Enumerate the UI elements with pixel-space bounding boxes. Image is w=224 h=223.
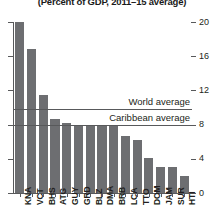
x-tickmark — [137, 194, 138, 197]
x-tickmark — [79, 194, 80, 197]
y-tick-left — [8, 22, 13, 23]
y-tick-label: 0 — [199, 189, 204, 198]
y-tick-left — [8, 90, 13, 91]
y-tick-label: 4 — [199, 154, 204, 163]
x-tickmark — [161, 194, 162, 197]
x-tickmark — [172, 194, 173, 197]
y-tick-label: 12 — [199, 86, 209, 95]
y-tick-left — [8, 125, 13, 126]
bar-guy — [62, 123, 71, 193]
y-tick-right — [191, 159, 196, 160]
bar-kna — [15, 22, 24, 193]
reference-label-caribbean: Caribbean average — [0, 113, 190, 123]
y-tick-right — [191, 56, 196, 57]
y-tick-label: 16 — [199, 52, 209, 61]
bar-grd — [74, 126, 83, 193]
x-tickmark — [20, 194, 21, 197]
x-tickmark — [43, 194, 44, 197]
x-tick-label-hti: HTI — [188, 194, 197, 205]
y-tick-label: 20 — [199, 18, 209, 27]
x-tickmark — [102, 194, 103, 197]
x-tickmark — [114, 194, 115, 197]
x-tickmark — [67, 194, 68, 197]
y-tick-label: 8 — [199, 120, 204, 129]
x-tickmark — [184, 194, 185, 197]
x-tickmark — [90, 194, 91, 197]
y-tick-left — [8, 56, 13, 57]
y-tick-left — [8, 159, 13, 160]
chart-figure: (Percent of GDP, 2011–15 average) 048121… — [0, 0, 224, 223]
y-tick-left — [8, 193, 13, 194]
bar-blz — [86, 126, 95, 193]
y-tick-right — [191, 22, 196, 23]
reference-line-caribbean — [14, 125, 192, 126]
x-tickmark — [125, 194, 126, 197]
reference-line-world — [14, 109, 192, 110]
bar-brb — [109, 126, 118, 193]
x-tickmark — [32, 194, 33, 197]
bar-dma — [97, 126, 106, 193]
x-tickmark — [55, 194, 56, 197]
bar-series — [14, 22, 190, 193]
bar-tto — [133, 140, 142, 193]
x-tickmark — [149, 194, 150, 197]
x-axis-labels: KNAVCTBHSATGGUYGRDBLZDMABRBLCATTODOMJAMS… — [14, 194, 190, 223]
reference-label-world: World average — [0, 97, 190, 107]
chart-title: (Percent of GDP, 2011–15 average) — [0, 0, 224, 7]
bar-atg — [50, 119, 59, 193]
plot-area — [14, 22, 190, 193]
y-tick-right — [191, 90, 196, 91]
bar-lca — [121, 136, 130, 193]
